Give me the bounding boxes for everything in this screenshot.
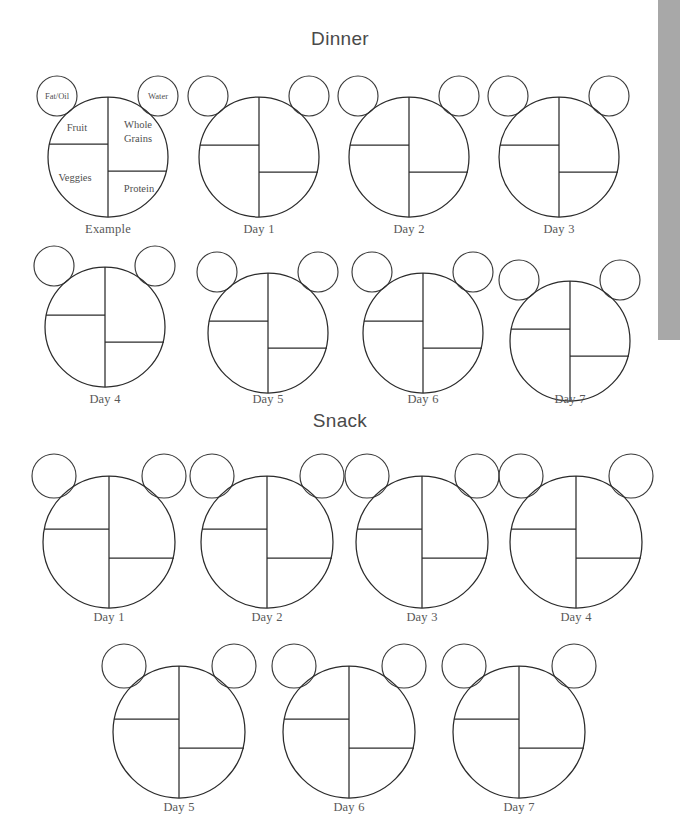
plate-caption: Day 7 [438,800,600,815]
plate-dinner-day-1[interactable]: Day 1 [186,72,336,232]
plate-caption: Day 3 [484,222,634,237]
scrollbar-thumb[interactable] [658,0,680,340]
bubble-fat-oil[interactable] [102,644,146,688]
plate-caption: Day 5 [193,392,343,407]
plate-caption: Day 7 [495,392,645,407]
bubble-water[interactable] [453,252,493,292]
section-title-snack: Snack [0,410,680,432]
plate-caption: Day 6 [268,800,430,815]
bubble-water[interactable] [589,76,629,116]
bubble-water[interactable] [212,644,256,688]
quadrant-label-grains: Grains [124,133,152,144]
plate-caption: Day 2 [186,610,348,625]
plate-dinner-example[interactable]: Fat/Oil Water Fruit Whole Grains Veggies… [30,72,190,232]
bubble-water[interactable] [552,644,596,688]
plate-caption: Day 1 [184,222,334,237]
plate-dinner-day-3[interactable]: Day 3 [486,72,636,232]
bubble-fat-oil-label: Fat/Oil [45,91,70,101]
plate-caption: Day 2 [334,222,484,237]
plate-snack-day-6[interactable]: Day 6 [270,640,432,812]
plate-caption: Day 3 [341,610,503,625]
bubble-fat-oil[interactable] [345,454,389,498]
plate-snack-day-2[interactable]: Day 2 [188,450,350,622]
plate-caption: Day 1 [28,610,190,625]
bubble-fat-oil[interactable] [499,454,543,498]
bubble-water-label: Water [148,91,168,101]
plate-snack-day-7[interactable]: Day 7 [440,640,602,812]
bubble-fat-oil[interactable] [442,644,486,688]
bubble-water[interactable] [135,246,175,286]
quadrant-label-whole: Whole [124,119,152,130]
bubble-water[interactable] [298,252,338,292]
bubble-water[interactable] [600,260,640,300]
bubble-water[interactable] [382,644,426,688]
plate-snack-day-5[interactable]: Day 5 [100,640,262,812]
plate-dinner-day-5[interactable]: Day 5 [195,248,345,408]
bubble-water[interactable] [300,454,344,498]
plate-snack-day-3[interactable]: Day 3 [343,450,505,622]
bubble-water[interactable] [455,454,499,498]
plate-caption: Day 4 [495,610,657,625]
quadrant-label-protein: Protein [124,183,155,194]
plate-dinner-day-4[interactable]: Day 4 [32,242,182,402]
quadrant-label-fruit: Fruit [67,122,88,133]
bubble-fat-oil[interactable] [272,644,316,688]
bubble-fat-oil[interactable] [190,454,234,498]
bubble-water[interactable] [609,454,653,498]
bubble-water[interactable] [439,76,479,116]
plate-snack-day-4[interactable]: Day 4 [497,450,659,622]
plate-caption: Day 5 [98,800,260,815]
plate-snack-day-1[interactable]: Day 1 [30,450,192,622]
bubble-fat-oil[interactable] [32,454,76,498]
quadrant-label-veggies: Veggies [58,172,91,183]
bubble-water[interactable] [289,76,329,116]
plate-caption-example: Example [28,222,188,237]
plate-dinner-day-2[interactable]: Day 2 [336,72,486,232]
worksheet-page: Dinner Fat/Oil Water Fruit Whole Grains … [0,0,680,827]
plate-caption: Day 4 [30,392,180,407]
section-title-dinner: Dinner [0,28,680,50]
bubble-water[interactable] [142,454,186,498]
plate-caption: Day 6 [348,392,498,407]
plate-dinner-day-6[interactable]: Day 6 [350,248,500,408]
plate-dinner-day-7[interactable]: Day 7 [497,256,647,416]
